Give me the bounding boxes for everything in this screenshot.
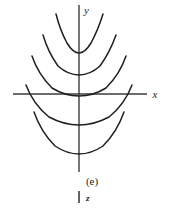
z-axis-label: z (85, 193, 90, 203)
figure-container: x y (e) z (0, 0, 171, 209)
y-axis-label: y (83, 4, 89, 16)
parabola-family-plot: x y (e) z (0, 0, 171, 209)
figure-caption: (e) (86, 175, 99, 188)
x-axis-label: x (152, 88, 158, 100)
